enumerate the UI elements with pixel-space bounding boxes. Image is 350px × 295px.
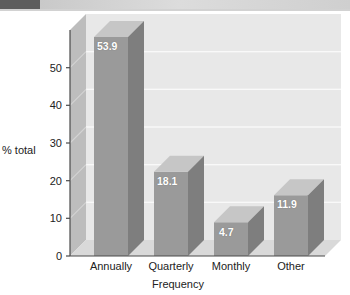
bar-value-label-other: 11.9 bbox=[277, 198, 297, 210]
bar-chart: 0 10 20 30 40 50 % total 53.9 18.1 4.7 1… bbox=[0, 11, 350, 295]
ytick-label-30: 30 bbox=[36, 137, 62, 149]
bar-other[interactable] bbox=[274, 179, 324, 256]
bar-value-label-quarterly: 18.1 bbox=[157, 175, 177, 187]
header-strip bbox=[0, 0, 350, 11]
xtick-label-other: Other bbox=[254, 260, 328, 272]
header-strip-light bbox=[40, 0, 350, 9]
ytick-label-10: 10 bbox=[36, 212, 62, 224]
bar-value-label-monthly: 4.7 bbox=[219, 226, 234, 238]
ytick-label-50: 50 bbox=[36, 62, 62, 74]
ytick-label-20: 20 bbox=[36, 175, 62, 187]
bar-value-label-annually: 53.9 bbox=[97, 40, 117, 52]
bar-quarterly[interactable] bbox=[154, 156, 204, 256]
bar-annually-side bbox=[128, 21, 144, 256]
bar-quarterly-side bbox=[188, 156, 204, 256]
axis-y-title: % total bbox=[2, 144, 36, 156]
bar-annually-front bbox=[94, 37, 128, 256]
header-strip-dark bbox=[0, 0, 40, 9]
bar-annually[interactable] bbox=[94, 21, 144, 256]
ytick-label-0: 0 bbox=[36, 250, 62, 262]
axis-x-title: Frequency bbox=[138, 278, 218, 290]
ytick-label-40: 40 bbox=[36, 99, 62, 111]
